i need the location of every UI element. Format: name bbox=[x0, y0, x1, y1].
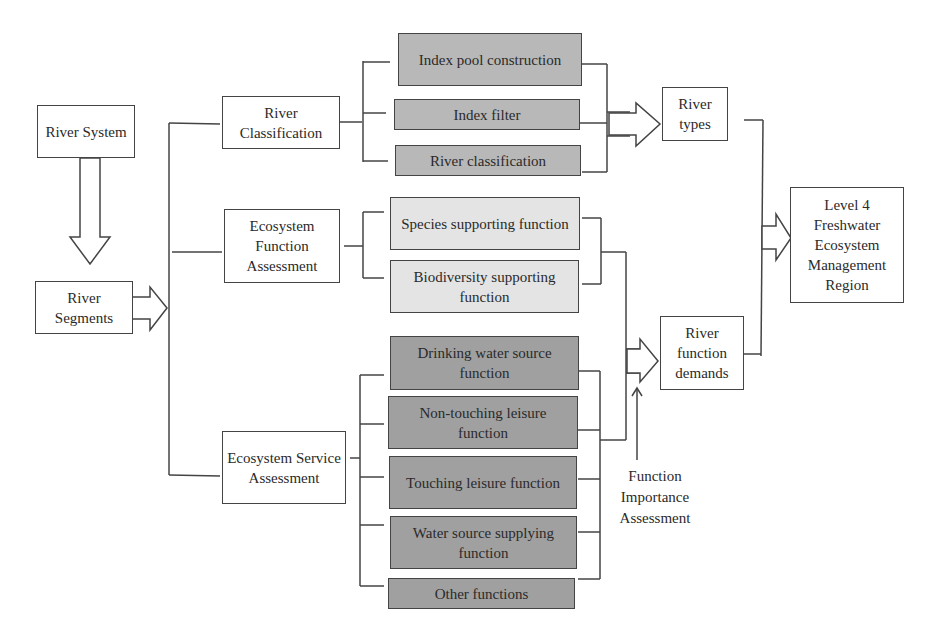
river-function-demands-label: River function demands bbox=[665, 323, 739, 383]
river-classification-label: River Classification bbox=[227, 103, 335, 143]
ecosystem-function-assessment-box: Ecosystem Function Assessment bbox=[224, 209, 340, 283]
service-item-box: Drinking water source function bbox=[390, 336, 579, 390]
ecosystem-service-assessment-label: Ecosystem Service Assessment bbox=[227, 448, 341, 488]
classification-step-box: Index pool construction bbox=[398, 33, 582, 86]
river-function-demands-box: River function demands bbox=[660, 316, 744, 390]
classification-step-label: River classification bbox=[430, 151, 546, 171]
river-system-label: River System bbox=[45, 122, 126, 142]
function-item-label: Species supporting function bbox=[401, 214, 568, 234]
service-item-label: Water source supplying function bbox=[395, 523, 572, 563]
function-importance-assessment-label: Function Importance Assessment bbox=[600, 466, 710, 529]
service-item-label: Other functions bbox=[435, 584, 529, 604]
service-item-box: Water source supplying function bbox=[390, 516, 577, 569]
classification-step-box: Index filter bbox=[394, 99, 580, 130]
river-segments-label: River Segments bbox=[40, 288, 128, 328]
service-item-box: Other functions bbox=[388, 578, 575, 609]
final-region-label: Level 4 Freshwater Ecosystem Management … bbox=[795, 195, 899, 295]
classification-step-label: Index filter bbox=[453, 105, 520, 125]
river-types-label: River types bbox=[667, 94, 723, 134]
function-item-label: Biodiversity supporting function bbox=[395, 267, 574, 307]
ecosystem-service-assessment-box: Ecosystem Service Assessment bbox=[222, 431, 346, 504]
final-region-box: Level 4 Freshwater Ecosystem Management … bbox=[790, 187, 904, 303]
river-classification-box: River Classification bbox=[222, 96, 340, 149]
function-item-box: Biodiversity supporting function bbox=[390, 260, 579, 313]
flowchart: River System River Segments River Classi… bbox=[0, 0, 936, 636]
service-item-label: Drinking water source function bbox=[395, 343, 574, 383]
river-segments-box: River Segments bbox=[35, 281, 133, 334]
service-item-box: Non-touching leisure function bbox=[388, 396, 578, 449]
river-types-box: River types bbox=[662, 87, 728, 141]
service-item-label: Touching leisure function bbox=[406, 473, 560, 493]
classification-step-label: Index pool construction bbox=[419, 50, 561, 70]
function-item-box: Species supporting function bbox=[390, 197, 580, 250]
classification-step-box: River classification bbox=[395, 145, 581, 176]
service-item-label: Non-touching leisure function bbox=[393, 403, 573, 443]
ecosystem-function-assessment-label: Ecosystem Function Assessment bbox=[229, 216, 335, 276]
river-system-box: River System bbox=[37, 105, 135, 158]
service-item-box: Touching leisure function bbox=[389, 456, 577, 509]
